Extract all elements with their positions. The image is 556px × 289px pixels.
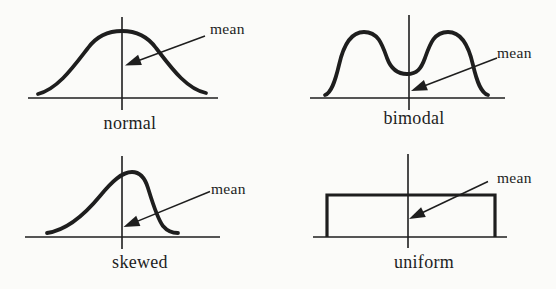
normal-panel-label: normal <box>104 113 157 134</box>
uniform-panel <box>313 154 507 248</box>
uniform-panel-label: uniform <box>394 252 454 273</box>
skewed-curve <box>47 172 178 233</box>
skewed-mean-arrow-line <box>134 192 210 223</box>
uniform-mean-arrow-line <box>419 182 488 215</box>
bimodal-mean-label: mean <box>497 44 532 62</box>
distribution-shapes-figure: mean normal mean bimodal mean skewed mea… <box>0 0 556 289</box>
skewed-panel <box>25 156 220 249</box>
normal-mean-arrow-head <box>125 55 142 66</box>
bimodal-mean-arrow-head <box>411 80 428 91</box>
uniform-rectangle <box>327 195 495 237</box>
normal-mean-label: mean <box>210 20 245 38</box>
bimodal-curve <box>325 32 488 95</box>
uniform-mean-arrow-head <box>409 207 426 219</box>
bimodal-panel <box>310 15 505 110</box>
normal-panel <box>28 17 218 110</box>
uniform-mean-label: mean <box>497 169 532 187</box>
figure-canvas <box>0 0 556 289</box>
skewed-mean-arrow-head <box>124 216 141 227</box>
bimodal-panel-label: bimodal <box>383 108 444 129</box>
skewed-panel-label: skewed <box>112 252 168 273</box>
skewed-mean-label: mean <box>211 180 246 198</box>
bimodal-mean-arrow-line <box>422 58 497 87</box>
